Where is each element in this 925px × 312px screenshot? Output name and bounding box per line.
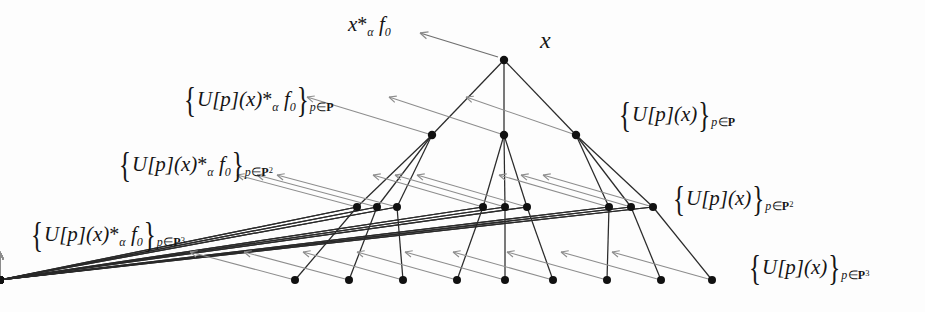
root-output-arrow [420,33,498,57]
subscript-exponent: 3 [865,268,869,278]
projection-arrows [0,97,712,280]
scattering-operator: U[p](x) [44,222,109,246]
brace-close: } [232,146,244,182]
tree-nodes [0,56,716,284]
subscript-set: P [261,165,269,179]
alpha-subscript: α [367,25,373,39]
alpha-subscript: α [119,235,125,249]
subscript-in: ∈ [848,268,858,282]
brace-open: { [619,96,631,132]
subscript-exponent: 2 [789,199,793,209]
subscript-in: ∈ [163,235,173,249]
path-subscript: p∈P [310,100,334,114]
subscript-set: P [326,100,334,114]
filter-index: 0 [225,165,231,179]
path-subscript: p∈P3 [841,268,869,282]
brace-open: { [749,249,761,285]
brace-close: } [828,249,840,285]
subscript-set: P [173,235,181,249]
brace-open: { [184,81,196,117]
convolution-star-icon: * [357,13,367,35]
path-subscript: p∈P [711,115,735,129]
subscript-exponent: 2 [269,165,273,175]
figure-canvas: x x*α f0 {U[p](x)*α f0}p∈P {U[p](x)*α f0… [0,0,925,312]
brace-open: { [31,216,43,252]
left-label-level2: {U[p](x)*α f0}p∈P2 [118,152,273,178]
right-label-level3: {U[p](x)}p∈P3 [748,255,870,281]
brace-open: { [673,180,685,216]
root-node-label: x [540,28,551,52]
convolution-star-icon: * [109,223,119,245]
root-output-lead: x [348,12,357,36]
path-subscript: p∈P3 [157,235,185,249]
filter-index: 0 [137,235,143,249]
scattering-operator: U[p](x) [132,152,197,176]
right-label-level2: {U[p](x)}p∈P2 [672,186,794,212]
subscript-set: P [728,115,736,129]
path-subscript: p∈P2 [765,199,793,213]
convolution-star-icon: * [262,88,272,110]
convolution-star-icon: * [197,153,207,175]
brace-close: } [144,216,156,252]
scattering-operator: U[p](x) [632,102,697,126]
subscript-in: ∈ [316,100,326,114]
left-label-level1: {U[p](x)*α f0}p∈P [183,87,334,113]
brace-close: } [297,81,309,117]
filter-index: 0 [385,25,391,39]
path-subscript: p∈P2 [245,165,273,179]
subscript-in: ∈ [718,115,728,129]
scattering-operator: U[p](x) [762,255,827,279]
brace-open: { [119,146,131,182]
alpha-subscript: α [272,100,278,114]
brace-close: } [752,180,764,216]
root-output-label: x*α f0 [348,14,391,38]
scattering-operator: U[p](x) [197,87,262,111]
subscript-in: ∈ [772,199,782,213]
alpha-subscript: α [207,165,213,179]
brace-close: } [698,96,710,132]
filter-index: 0 [290,100,296,114]
subscript-exponent: 3 [181,235,185,245]
left-label-level3: {U[p](x)*α f0}p∈P3 [30,222,185,248]
subscript-in: ∈ [251,165,261,179]
right-label-level1: {U[p](x)}p∈P [618,102,735,128]
scattering-operator: U[p](x) [686,186,751,210]
